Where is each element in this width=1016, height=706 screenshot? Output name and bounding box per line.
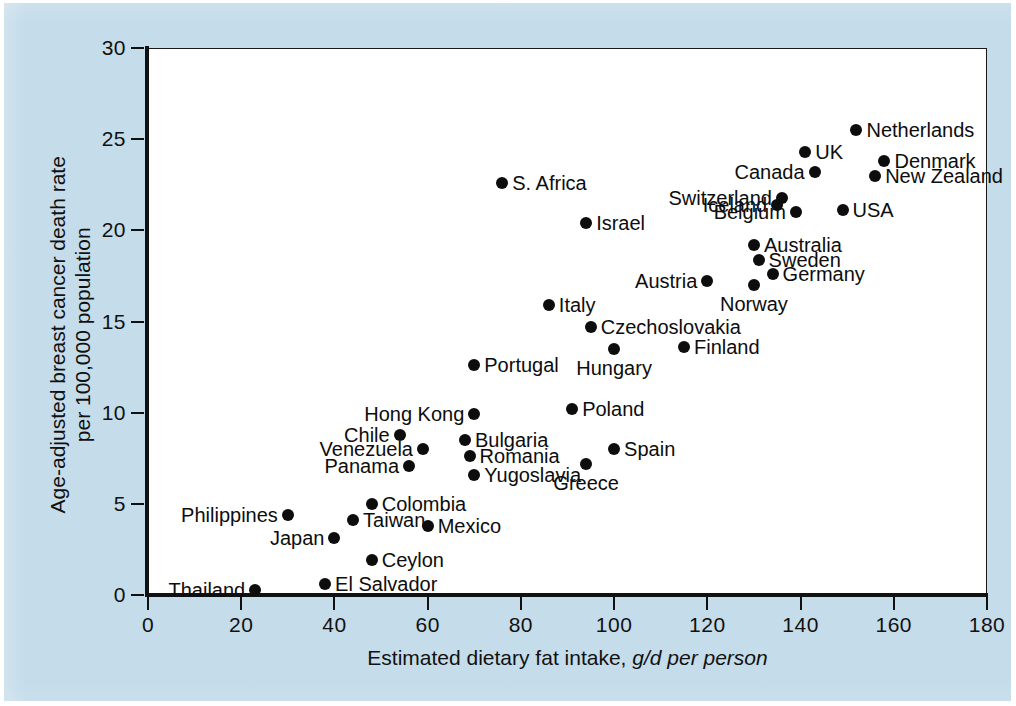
data-point-label: Germany	[783, 264, 865, 284]
x-tick	[333, 597, 335, 610]
x-tick	[706, 597, 708, 610]
data-point	[809, 166, 821, 178]
y-tick	[131, 594, 144, 596]
x-tick-label: 80	[509, 613, 533, 637]
data-point	[748, 239, 760, 251]
data-point	[366, 554, 378, 566]
data-point-label: Ceylon	[382, 550, 444, 570]
data-point	[608, 343, 620, 355]
y-axis-title-line2: per 100,000 population	[71, 55, 96, 615]
data-point	[748, 279, 760, 291]
data-point	[468, 469, 480, 481]
data-point	[282, 509, 294, 521]
data-point	[417, 443, 429, 455]
x-tick-label: 120	[689, 613, 726, 637]
data-point	[580, 217, 592, 229]
data-point-label: Belgium	[714, 202, 786, 222]
data-point	[468, 408, 480, 420]
data-point-label: Austria	[635, 271, 697, 291]
data-point-label: New Zealand	[885, 166, 1003, 186]
x-tick-label: 100	[596, 613, 633, 637]
x-tick-label: 40	[322, 613, 346, 637]
data-point	[767, 268, 779, 280]
page-edge-top	[0, 0, 1016, 3]
data-point	[468, 359, 480, 371]
x-tick	[800, 597, 802, 610]
data-point-label: Czechoslovakia	[601, 317, 741, 337]
data-point-label: Philippines	[181, 505, 278, 525]
data-point	[701, 275, 713, 287]
data-point-label: Canada	[734, 162, 804, 182]
figure-scatter-plot: 020406080100120140160180 051015202530 Ne…	[0, 0, 1016, 706]
data-point	[585, 321, 597, 333]
x-tick	[613, 597, 615, 610]
y-tick	[131, 503, 144, 505]
x-tick	[986, 597, 988, 610]
data-point-label: El Salvador	[335, 574, 437, 594]
y-axis-title: Age-adjusted breast cancer death rate pe…	[46, 55, 96, 615]
page-edge-bottom	[0, 701, 1016, 706]
data-point	[753, 254, 765, 266]
y-tick	[131, 138, 144, 140]
data-point-label: Spain	[624, 439, 675, 459]
data-point	[799, 146, 811, 158]
data-point-label: UK	[815, 142, 843, 162]
data-point	[249, 584, 261, 596]
data-point	[319, 578, 331, 590]
data-point-label: Norway	[720, 294, 788, 314]
y-tick	[131, 321, 144, 323]
data-point	[678, 341, 690, 353]
data-point-label: S. Africa	[512, 173, 586, 193]
data-point	[366, 498, 378, 510]
y-axis-title-line1: Age-adjusted breast cancer death rate	[46, 55, 71, 615]
data-point-label: Thailand	[168, 580, 245, 600]
x-tick-label: 140	[782, 613, 819, 637]
data-point	[464, 450, 476, 462]
data-point	[869, 170, 881, 182]
y-axis-line	[145, 46, 149, 597]
data-point	[543, 299, 555, 311]
x-tick-label: 180	[969, 613, 1006, 637]
data-point	[837, 204, 849, 216]
data-point-label: Taiwan	[363, 510, 425, 530]
data-point	[850, 124, 862, 136]
data-point	[580, 458, 592, 470]
x-tick	[147, 597, 149, 610]
data-point	[459, 434, 471, 446]
x-tick-label: 0	[142, 613, 154, 637]
x-tick	[893, 597, 895, 610]
data-point-label: Mexico	[438, 516, 501, 536]
y-tick	[131, 47, 144, 49]
data-point-label: Japan	[270, 528, 325, 548]
x-axis-line	[145, 593, 988, 597]
x-axis-title-main: Estimated dietary fat intake,	[367, 646, 632, 669]
data-point	[403, 460, 415, 472]
x-tick-label: 60	[415, 613, 439, 637]
data-point	[422, 520, 434, 532]
data-point	[347, 514, 359, 526]
x-tick-label: 160	[875, 613, 912, 637]
x-axis-title: Estimated dietary fat intake, g/d per pe…	[148, 646, 987, 670]
data-point	[328, 532, 340, 544]
data-point	[790, 206, 802, 218]
data-point-label: Israel	[596, 213, 645, 233]
data-point-label: Poland	[582, 399, 644, 419]
page-edge-right	[1011, 0, 1016, 706]
data-point-label: Italy	[559, 295, 596, 315]
data-point-label: Portugal	[484, 355, 559, 375]
data-point-label: Yugoslavia	[484, 465, 581, 485]
y-tick	[131, 229, 144, 231]
data-point-label: Netherlands	[866, 120, 974, 140]
data-point	[608, 443, 620, 455]
data-point-label: Hong Kong	[364, 404, 464, 424]
data-point-label: Panama	[325, 456, 400, 476]
data-point	[566, 403, 578, 415]
data-point-label: USA	[853, 200, 894, 220]
data-point-label: Finland	[694, 337, 760, 357]
x-tick	[520, 597, 522, 610]
x-axis-title-units: g/d per person	[632, 646, 767, 669]
x-tick-label: 20	[229, 613, 253, 637]
x-tick	[427, 597, 429, 610]
y-tick	[131, 412, 144, 414]
data-point	[496, 177, 508, 189]
